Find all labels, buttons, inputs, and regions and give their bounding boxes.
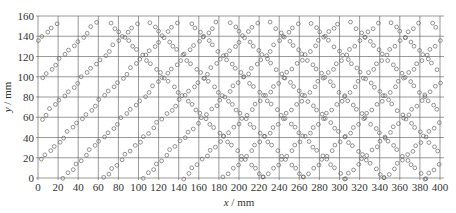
marker-circle [340,59,344,63]
marker-circle [250,149,254,153]
marker-circle [195,67,199,71]
marker-circle [190,22,194,26]
marker-circle [409,80,413,84]
marker-circle [287,30,291,34]
marker-circle [57,98,61,102]
marker-circle [252,126,256,130]
marker-circle [193,26,197,30]
marker-circle [222,54,226,58]
marker-circle [346,171,350,175]
marker-circle [392,144,396,148]
marker-circle [255,62,259,66]
marker-circle [437,121,441,125]
marker-circle [351,126,355,130]
marker-circle [247,72,251,76]
marker-circle [369,122,373,126]
marker-circle [398,39,402,43]
marker-circle [312,166,316,170]
marker-circle [131,44,135,48]
y-tick-label: 0 [29,172,35,184]
marker-circle [372,85,376,89]
marker-circle [388,47,392,51]
marker-circle [412,67,416,71]
marker-circle [62,136,66,140]
marker-circle [187,89,191,93]
marker-circle [375,145,379,149]
marker-circle [43,153,47,157]
marker-circle [36,39,40,43]
marker-circle [348,47,352,51]
marker-circle [127,39,131,43]
marker-circle [85,31,89,35]
marker-circle [79,159,83,163]
marker-circle [309,131,313,135]
x-tick-label: 60 [93,181,105,193]
marker-circle [253,102,257,106]
marker-circle [248,81,252,85]
marker-circle [251,85,255,89]
marker-circle [141,135,145,139]
marker-circle [135,47,139,51]
marker-circle [349,20,353,24]
marker-circle [238,111,242,115]
marker-circle [144,95,148,99]
marker-circle [112,85,116,89]
marker-circle [412,84,416,88]
marker-circle [44,113,48,117]
marker-circle [208,122,212,126]
marker-circle [245,113,249,117]
marker-circle [168,148,172,152]
marker-circle [155,120,159,124]
marker-circle [75,121,79,125]
marker-circle [213,145,217,149]
marker-circle [353,85,357,89]
marker-circle [411,27,415,31]
scatter-chart: 020406080100120140160 020406080100120140… [0,0,456,213]
marker-circle [266,172,270,176]
y-axis-ticks: 020406080100120140160 [18,10,35,184]
marker-circle [354,107,358,111]
marker-circle [171,44,175,48]
marker-circle [233,66,237,70]
x-tick-label: 0 [35,181,41,193]
marker-circle [234,108,238,112]
marker-circle [67,48,71,52]
marker-circle [374,127,378,131]
marker-circle [380,52,384,56]
marker-circle [194,108,198,112]
marker-circle [269,90,273,94]
marker-circle [93,144,97,148]
marker-circle [371,27,375,31]
marker-circle [353,44,357,48]
marker-circle [160,117,164,121]
marker-circle [380,59,384,63]
marker-circle [430,61,434,65]
marker-circle [106,89,110,93]
marker-circle [413,166,417,170]
marker-circle [378,173,382,177]
marker-circle [419,141,423,145]
marker-circle [326,71,330,75]
marker-circle [153,45,157,49]
marker-circle [426,57,430,61]
marker-circle [288,39,292,43]
marker-circle [198,39,202,43]
marker-circle [352,168,356,172]
marker-circle [130,26,134,30]
x-tick-label: 260 [291,181,308,193]
marker-circle [226,172,230,176]
marker-circle [166,30,170,34]
marker-circle [215,104,219,108]
marker-circle [436,149,440,153]
marker-circle [55,22,59,26]
marker-circle [125,72,129,76]
marker-circle [141,176,145,180]
marker-circle [390,102,394,106]
y-tick-label: 100 [18,71,35,83]
marker-circle [417,91,421,95]
marker-circle [300,99,304,103]
marker-circle [230,143,234,147]
marker-circle [327,38,331,42]
marker-circle [172,85,176,89]
marker-circle [197,121,201,125]
